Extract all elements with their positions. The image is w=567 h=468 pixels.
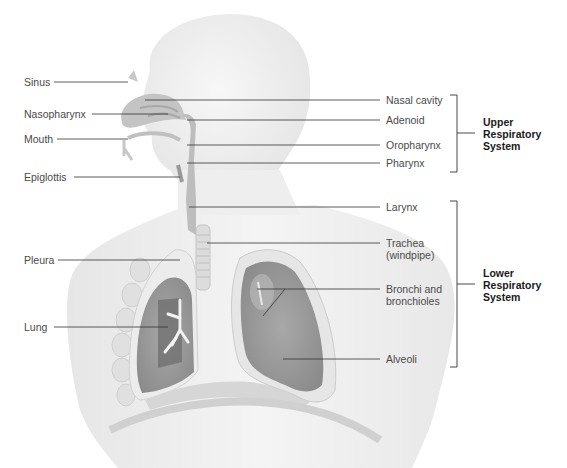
label-pleura: Pleura [24,254,54,266]
label-sinus: Sinus [24,76,50,88]
label-trachea: Trachea (windpipe) [386,237,434,261]
label-mouth: Mouth [24,133,53,145]
label-pharynx: Pharynx [386,157,425,169]
anatomy-illustration [0,0,567,468]
label-nasal-cavity: Nasal cavity [386,94,443,106]
label-alveoli: Alveoli [386,353,417,365]
label-nasopharynx: Nasopharynx [24,108,86,120]
label-bronchi: Bronchi and bronchioles [386,283,442,307]
lower-respiratory-system-label: Lower Respiratory System [483,267,541,303]
lower-system-bracket [450,201,475,367]
label-adenoid: Adenoid [386,114,425,126]
upper-respiratory-system-label: Upper Respiratory System [483,116,541,152]
label-lung: Lung [24,321,47,333]
trachea-shape [196,225,210,290]
respiratory-diagram: Sinus Nasopharynx Mouth Epiglottis Pleur… [0,0,567,468]
label-epiglottis: Epiglottis [24,171,67,183]
upper-system-bracket [450,95,475,172]
label-oropharynx: Oropharynx [386,139,441,151]
label-larynx: Larynx [386,201,418,213]
